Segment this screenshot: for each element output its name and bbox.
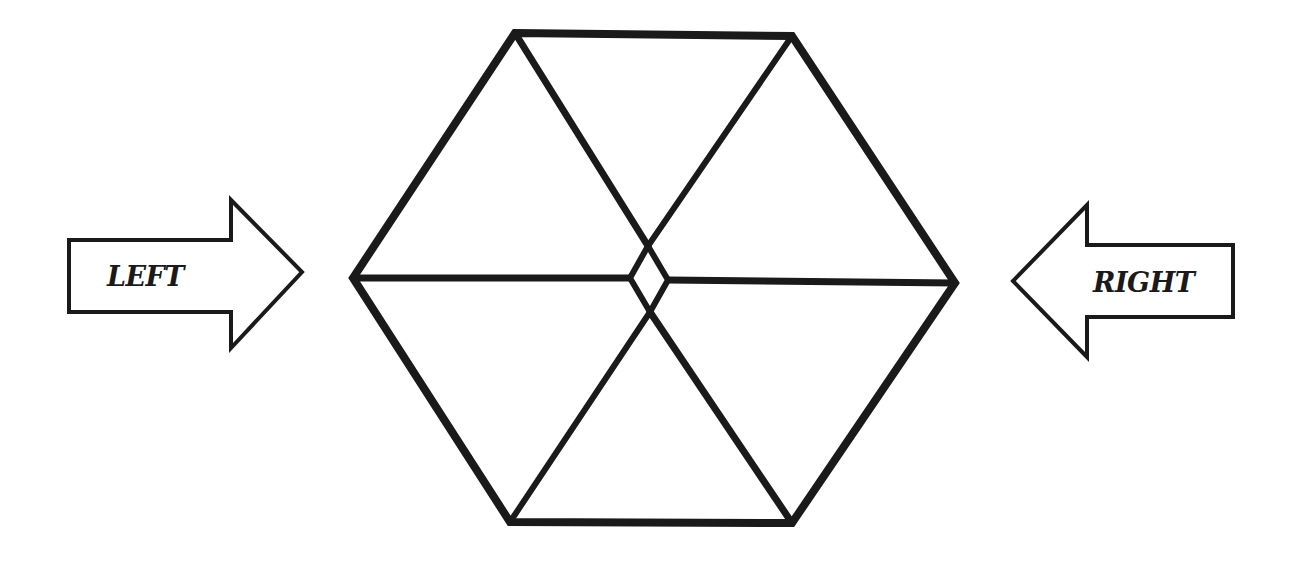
left-arrow-shape (69, 200, 302, 348)
left-arrow-label: LEFT (106, 261, 186, 292)
right-arrow-label: RIGHT (1092, 267, 1197, 298)
spoke-right (668, 280, 955, 283)
spoke-bottom-right (650, 312, 792, 523)
right-arrow: RIGHT (1013, 205, 1233, 357)
hexagon (353, 33, 955, 523)
spoke-top-right (648, 36, 792, 246)
spoke-bottom-left (510, 312, 650, 522)
spoke-top-left (515, 33, 648, 246)
diagram-canvas: LEFT RIGHT (0, 0, 1294, 561)
left-arrow: LEFT (69, 200, 302, 348)
center-diamond (630, 246, 668, 312)
